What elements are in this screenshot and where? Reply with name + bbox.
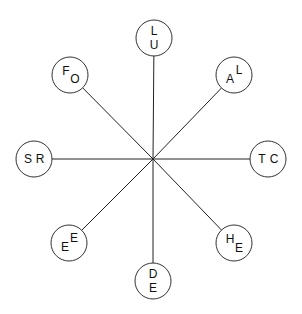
node-top-right: LA [216, 57, 252, 93]
node-letter: E [61, 240, 69, 254]
node-letter: O [70, 72, 79, 86]
node-letter: F [62, 64, 69, 78]
node-left: SR [16, 141, 52, 177]
node-letter: S [24, 152, 32, 166]
node-letter: U [150, 38, 159, 52]
node-top-left: FO [52, 57, 88, 93]
node-bottom-right: HE [216, 225, 252, 261]
node-letter: A [226, 72, 234, 86]
radial-letter-diagram: LULATCHEDEEESRFO [0, 0, 302, 314]
node-top: LU [136, 20, 172, 56]
node-letter: D [149, 267, 158, 281]
node-circle [250, 141, 286, 177]
node-letter: T [258, 152, 266, 166]
node-letter: C [270, 152, 279, 166]
node-letter: L [236, 63, 243, 77]
node-letter: E [149, 281, 157, 295]
node-right: TC [250, 141, 286, 177]
node-letter: H [226, 232, 235, 246]
node-bottom-left: EE [51, 225, 87, 261]
node-bottom: DE [135, 263, 171, 299]
node-letter: E [235, 241, 243, 255]
node-circle [16, 141, 52, 177]
node-letter: E [70, 231, 78, 245]
node-letter: R [36, 152, 45, 166]
node-letter: L [151, 24, 158, 38]
